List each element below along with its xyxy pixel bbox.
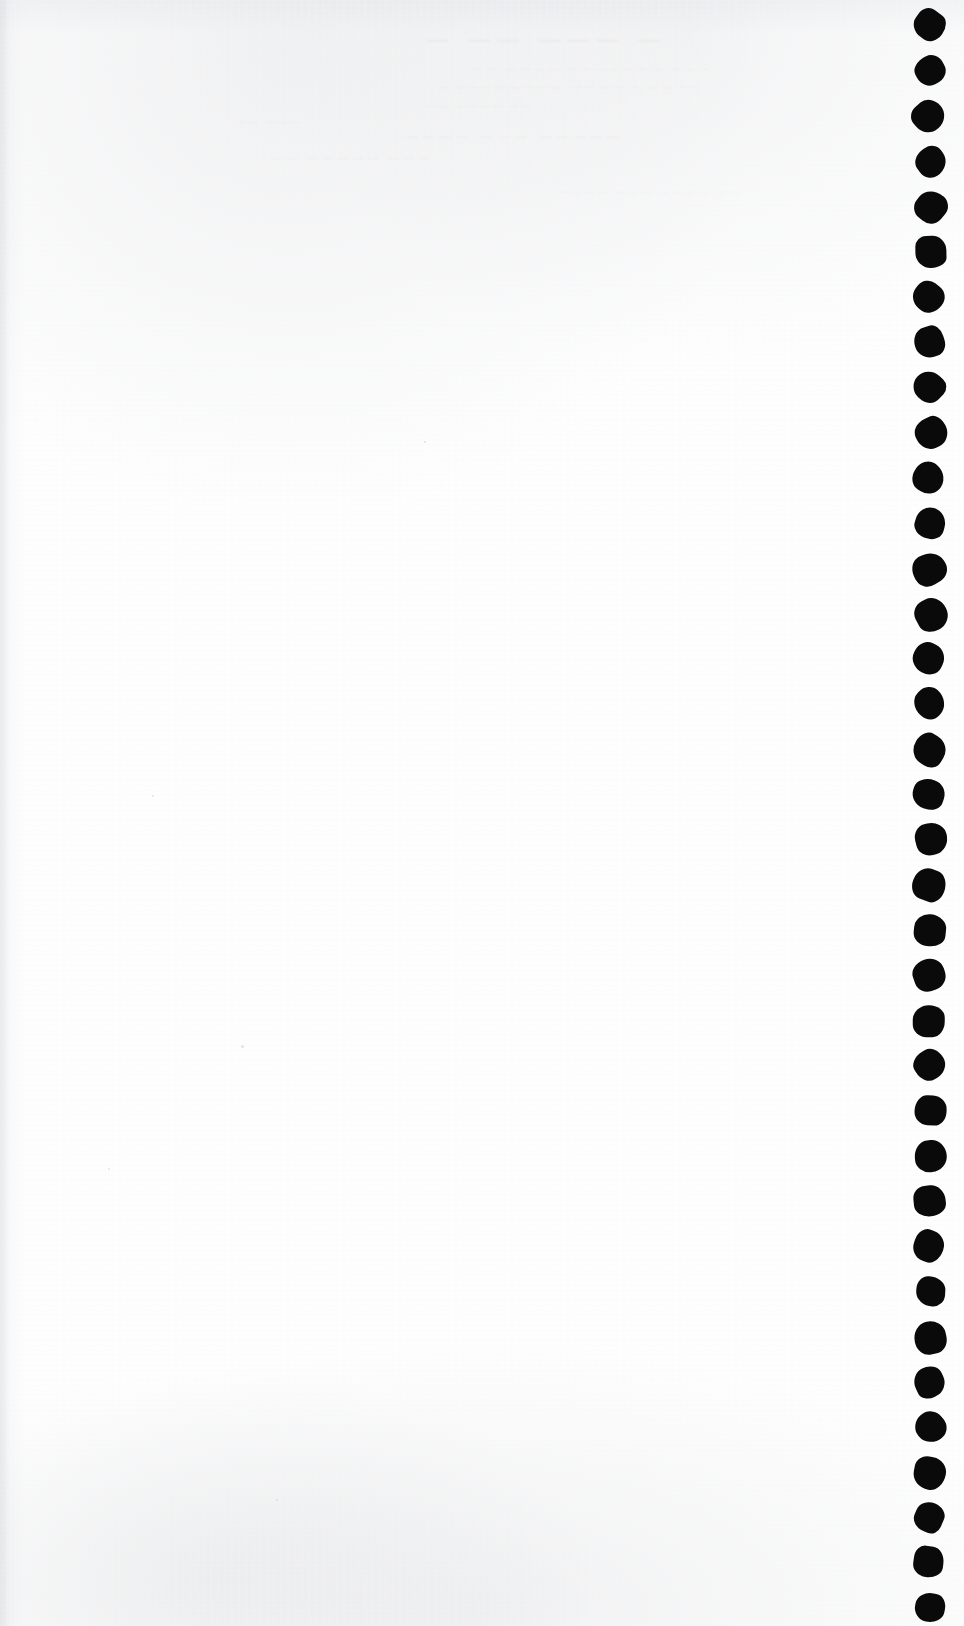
scan-speck xyxy=(241,1045,244,1048)
scan-speck xyxy=(424,441,426,443)
scanned-page: — ——— —— — ——— ——————— ———— —— ———— ————… xyxy=(0,0,964,1626)
scan-speck xyxy=(108,1168,110,1170)
scan-speck xyxy=(276,1499,278,1501)
paper-surface xyxy=(0,0,964,1626)
scan-speck xyxy=(152,795,154,797)
